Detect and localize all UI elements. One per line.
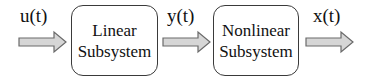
intermediate-arrow-icon [162,31,212,53]
linear-block-label-line2: Subsystem [78,41,152,62]
input-arrow-icon [18,31,68,53]
linear-block-label-line1: Linear [92,20,136,41]
output-signal-label: x(t) [313,6,340,26]
linear-subsystem-block: Linear Subsystem [71,5,158,76]
input-signal-label: u(t) [20,6,47,26]
output-arrow-icon [305,31,355,53]
intermediate-signal-label: y(t) [167,6,194,26]
nonlinear-block-label-line2: Subsystem [219,41,293,62]
nonlinear-subsystem-block: Nonlinear Subsystem [213,5,299,76]
nonlinear-block-label-line1: Nonlinear [222,20,290,41]
